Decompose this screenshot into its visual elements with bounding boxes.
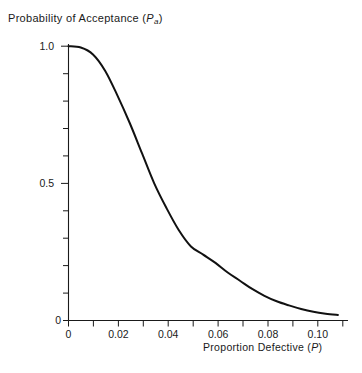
x-axis-title: Proportion Defective (P) [203, 341, 322, 353]
x-tick-label-0: 0 [66, 328, 72, 340]
oc-curve-line [69, 46, 338, 315]
oc-curve-chart: Probability of Acceptance (Pa) [0, 0, 362, 373]
x-tick-label-006: 0.06 [208, 328, 229, 340]
x-tick-label-010: 0.10 [308, 328, 329, 340]
y-axis-tick-labels: 1.0 0.5 0 [39, 40, 61, 326]
x-tick-label-004: 0.04 [158, 328, 179, 340]
y-tick-label-1: 1.0 [39, 40, 54, 52]
y-axis-minor-ticks [61, 46, 69, 320]
plot-area: 1.0 0.5 0 0 0.02 0.04 0.06 0.08 0.10 [0, 0, 362, 373]
axes [69, 44, 349, 321]
y-tick-label-0: 0 [55, 314, 61, 326]
y-tick-label-05: 0.5 [39, 177, 54, 189]
x-tick-label-002: 0.02 [108, 328, 129, 340]
x-axis-minor-ticks [69, 321, 343, 327]
x-axis-title-text: Proportion Defective ( [203, 341, 311, 353]
x-axis-title-paren: ) [318, 341, 322, 353]
x-axis-tick-labels: 0 0.02 0.04 0.06 0.08 0.10 [66, 328, 329, 340]
x-tick-label-008: 0.08 [258, 328, 279, 340]
